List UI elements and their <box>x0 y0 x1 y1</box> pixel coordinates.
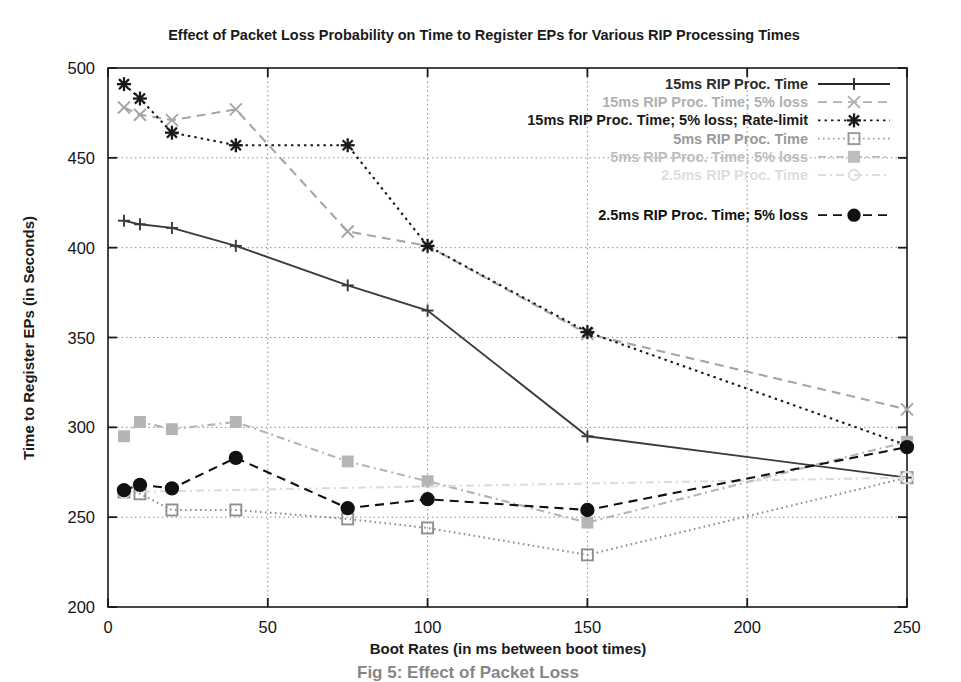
y-tick-label: 400 <box>67 239 95 257</box>
figure-container: Effect of Packet Loss Probability on Tim… <box>0 0 961 682</box>
filled-circle-marker <box>581 504 593 516</box>
legend-label: 15ms RIP Proc. Time <box>665 76 808 92</box>
legend-label: 15ms RIP Proc. Time; 5% loss <box>602 94 808 110</box>
chart-title: Effect of Packet Loss Probability on Tim… <box>168 27 800 43</box>
x-tick-label: 200 <box>733 618 761 636</box>
legend-item-5[interactable]: 2.5ms RIP Proc. Time <box>661 167 890 183</box>
filled-circle-marker <box>421 493 433 505</box>
y-tick-label: 500 <box>67 59 95 77</box>
legend-label: 5ms RIP Proc. Time <box>673 131 808 147</box>
y-axis-label: Time to Register EPs (in Seconds) <box>20 216 37 460</box>
filled-square-marker <box>343 456 353 466</box>
filled-circle-marker <box>230 452 242 464</box>
filled-square-marker <box>231 417 241 427</box>
filled-square-marker <box>849 152 859 162</box>
filled-circle-marker <box>166 482 178 494</box>
filled-circle-marker <box>134 479 146 491</box>
filled-square-marker <box>582 518 592 528</box>
x-tick-label: 50 <box>259 618 277 636</box>
filled-square-marker <box>135 417 145 427</box>
legend-label: 15ms RIP Proc. Time; 5% loss; Rate-limit <box>527 112 808 128</box>
y-tick-label: 450 <box>67 149 95 167</box>
svg-text:Fig 5: Effect of Packet Loss: Fig 5: Effect of Packet Loss <box>357 663 579 682</box>
figure-caption: Fig 5: Effect of Packet Loss <box>357 663 579 682</box>
filled-circle-marker <box>342 502 354 514</box>
filled-circle-marker <box>848 210 859 221</box>
chart-canvas: Effect of Packet Loss Probability on Tim… <box>0 0 961 682</box>
filled-circle-marker <box>118 484 130 496</box>
y-tick-label: 350 <box>67 329 95 347</box>
filled-circle-marker <box>901 441 913 453</box>
x-axis-label: Boot Rates (in ms between boot times) <box>370 640 647 657</box>
x-tick-label: 150 <box>574 618 602 636</box>
filled-square-marker <box>423 476 433 486</box>
y-tick-label: 300 <box>67 418 95 436</box>
legend-label: 2.5ms RIP Proc. Time; 5% loss <box>598 207 808 223</box>
x-tick-label: 0 <box>103 618 112 636</box>
legend-label: 2.5ms RIP Proc. Time <box>661 167 808 183</box>
filled-square-marker <box>119 431 129 441</box>
filled-square-marker <box>167 424 177 434</box>
y-tick-label: 200 <box>67 598 95 616</box>
y-tick-label: 250 <box>67 508 95 526</box>
legend-label: 5ms RIP Proc. Time; 5% loss <box>610 149 808 165</box>
x-tick-label: 250 <box>893 618 921 636</box>
x-tick-label: 100 <box>414 618 442 636</box>
